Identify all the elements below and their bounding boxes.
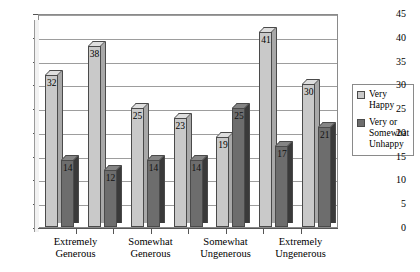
x-axis-tick [301, 229, 302, 234]
legend-label-line: Very or [369, 117, 397, 127]
gridline [39, 110, 337, 111]
x-axis-tick [113, 229, 114, 234]
bar-side-face [288, 142, 293, 223]
bar-light-0: 32 [45, 75, 58, 227]
bar-light-4: 19 [216, 137, 229, 227]
bar-value-label: 25 [234, 111, 244, 121]
legend-swatch-icon [357, 91, 365, 99]
x-axis-tick [151, 229, 152, 234]
x-axis-tick [263, 229, 264, 234]
legend-label-line: Unhappy [369, 139, 404, 149]
category-label-line: Ungenerous [275, 248, 326, 259]
bar-value-label: 12 [106, 173, 116, 183]
bar-dark-0: 14 [61, 160, 74, 227]
bar-front-face [88, 46, 101, 227]
bar-value-label: 14 [192, 163, 202, 173]
bar-front-face [232, 108, 245, 227]
bar-value-label: 30 [304, 87, 314, 97]
bar-front-face [174, 118, 187, 227]
bar-dark-1: 12 [104, 170, 117, 227]
y-axis-label: 10 [382, 175, 406, 185]
bar-side-face [117, 166, 122, 223]
y-axis-label: 25 [382, 104, 406, 114]
y-axis-label: 15 [382, 152, 406, 162]
x-axis [38, 228, 338, 229]
bar-dark-2: 14 [147, 160, 160, 227]
bar-front-face [302, 84, 315, 227]
y-axis-label: 40 [382, 33, 406, 43]
category-label-line: Somewhat [203, 236, 247, 247]
bar-value-label: 19 [218, 140, 228, 150]
plot-area: 3214381225142314192541173021 [38, 14, 338, 228]
y-axis-label: 45 [382, 9, 406, 19]
y-axis-label: 35 [382, 57, 406, 67]
category-label-line: Somewhat [128, 236, 172, 247]
bar-front-face [45, 75, 58, 227]
bar-value-label: 23 [176, 121, 186, 131]
y-axis-label: 5 [382, 199, 406, 209]
y-axis-label: 30 [382, 80, 406, 90]
bar-side-face [331, 123, 336, 223]
category-label-line: Extremely [54, 236, 98, 247]
bar-light-2: 25 [131, 108, 144, 227]
bar-dark-4: 25 [232, 108, 245, 227]
category-label-line: Generous [55, 248, 95, 259]
bar-value-label: 14 [149, 163, 159, 173]
chart-legend: Very Happy Very or Somewhat Unhappy [352, 84, 414, 156]
bar-side-face [160, 156, 165, 223]
bar-light-1: 38 [88, 46, 101, 227]
bar-dark-3: 14 [190, 160, 203, 227]
gridline [39, 63, 337, 64]
bar-value-label: 32 [47, 78, 57, 88]
bar-light-5: 41 [259, 32, 272, 227]
bar-value-label: 17 [277, 149, 287, 159]
gridline [39, 15, 337, 16]
x-axis-category-label: ExtremelyUngenerous [253, 236, 349, 260]
bar-front-face [216, 137, 229, 227]
y-axis-label: 0 [382, 223, 406, 233]
bar-value-label: 25 [133, 111, 143, 121]
y-axis-label: 20 [382, 128, 406, 138]
bar-value-label: 38 [90, 49, 100, 59]
x-axis-tick [226, 229, 227, 234]
x-axis-tick [188, 229, 189, 234]
bar-value-label: 14 [63, 163, 73, 173]
bar-value-label: 41 [261, 35, 271, 45]
bar-dark-6: 21 [318, 127, 331, 227]
category-label-line: Ungenerous [200, 248, 251, 259]
bar-front-face [131, 108, 144, 227]
bar-light-6: 30 [302, 84, 315, 227]
bar-side-face [203, 156, 208, 223]
bar-front-face [259, 32, 272, 227]
bar-front-face [318, 127, 331, 227]
bar-side-face [245, 104, 250, 223]
gridline [39, 86, 337, 87]
bar-value-label: 21 [320, 130, 330, 140]
legend-label-line: Very [369, 89, 387, 99]
bar-chart: 3214381225142314192541173021 Very Happy … [0, 0, 420, 272]
bar-light-3: 23 [174, 118, 187, 227]
category-label-line: Generous [130, 248, 170, 259]
category-label-line: Extremely [279, 236, 323, 247]
gridline [39, 39, 337, 40]
legend-swatch-icon [357, 119, 365, 127]
x-axis-tick [76, 229, 77, 234]
bar-side-face [74, 156, 79, 223]
bar-dark-5: 17 [275, 146, 288, 227]
